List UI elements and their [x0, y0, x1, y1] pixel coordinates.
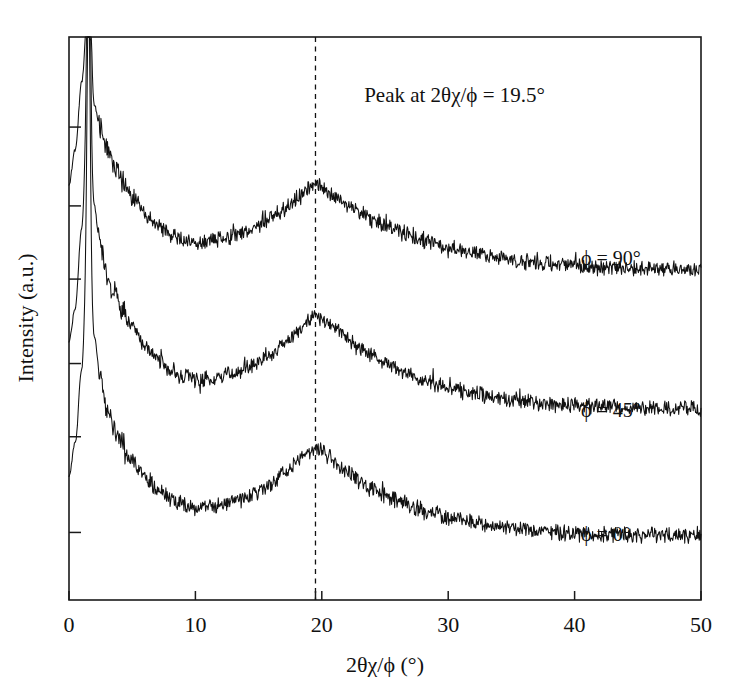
series-label-phi-45: ϕ = 45° — [581, 399, 641, 422]
chart-canvas: 01020304050 ϕ = 90°ϕ = 45°ϕ = 0° Peak at… — [0, 0, 745, 699]
x-axis-tick-labels: 01020304050 — [64, 612, 713, 637]
x-tick-label-0: 0 — [64, 612, 75, 637]
x-tick-label-30: 30 — [437, 612, 459, 637]
x-axis-title: 2θχ/ϕ (°) — [346, 652, 424, 677]
series-label-phi-0: ϕ = 0° — [581, 523, 631, 546]
y-axis-title: Intensity (a.u.) — [13, 254, 38, 383]
plot-frame — [69, 37, 701, 600]
xrd-figure: 01020304050 ϕ = 90°ϕ = 45°ϕ = 0° Peak at… — [0, 0, 745, 699]
curve-phi-0 — [69, 37, 701, 543]
curve-phi-90 — [69, 37, 701, 276]
x-tick-label-50: 50 — [690, 612, 712, 637]
series-labels: ϕ = 90°ϕ = 45°ϕ = 0° — [581, 247, 641, 546]
chart-annotations: Peak at 2θχ/ϕ = 19.5° — [364, 83, 545, 107]
data-curves — [69, 37, 701, 543]
x-tick-label-40: 40 — [564, 612, 586, 637]
x-axis-ticks — [69, 591, 701, 600]
peak-annotation: Peak at 2θχ/ϕ = 19.5° — [364, 83, 545, 107]
series-label-phi-90: ϕ = 90° — [581, 247, 641, 270]
x-tick-label-10: 10 — [184, 612, 206, 637]
x-tick-label-20: 20 — [311, 612, 333, 637]
